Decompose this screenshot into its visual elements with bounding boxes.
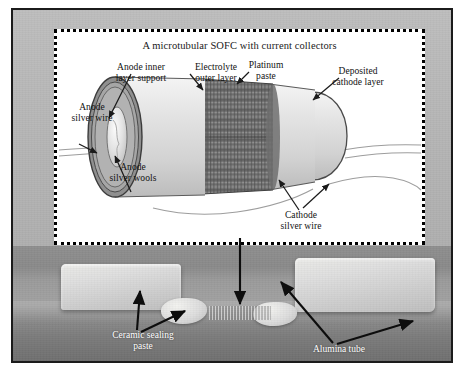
label-deposited-cathode-layer: Deposited cathode layer — [315, 66, 401, 88]
label-platinum-paste: Platinum paste — [237, 60, 295, 82]
tube-right-endcap — [312, 92, 347, 180]
alumina-tube-right — [295, 258, 435, 312]
label-anode-silver-wools: Anode silver wools — [95, 162, 171, 184]
arrow-cathode-silver-wire-a — [279, 180, 299, 210]
annotation-arrows — [79, 72, 339, 210]
alumina-tube-left — [61, 264, 181, 310]
arrow-anode-silver-wire — [79, 144, 97, 153]
platinum-coil-section — [195, 79, 280, 195]
label-anode-silver-wire: Anode silver wire — [59, 102, 125, 124]
inset-title: A microtubular SOFC with current collect… — [57, 40, 422, 51]
schematic-inset-panel: A microtubular SOFC with current collect… — [54, 29, 425, 245]
cathode-layer-segment — [269, 84, 315, 190]
photo-plate: A microtubular SOFC with current collect… — [11, 8, 453, 363]
label-ceramic-sealing-paste: Ceramic sealing paste — [87, 330, 199, 352]
label-anode-inner-layer-support: Anode inner layer support — [99, 62, 183, 84]
sofc-cell-strip — [209, 306, 271, 320]
arrow-cathode-silver-wire-b — [303, 184, 329, 208]
label-cathode-silver-wire: Cathode silver wire — [265, 210, 337, 232]
figure-root: A microtubular SOFC with current collect… — [0, 0, 463, 370]
label-alumina-tube: Alumina tube — [289, 344, 389, 355]
